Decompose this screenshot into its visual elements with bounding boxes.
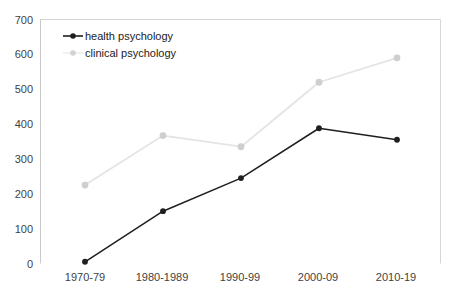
x-tick-label: 2000-09 — [298, 271, 338, 283]
data-point-marker — [82, 259, 88, 265]
legend-item-health-psychology: health psychology — [63, 30, 174, 42]
data-point-marker — [316, 125, 322, 131]
y-tick-label: 300 — [15, 153, 33, 165]
data-point-marker — [394, 54, 401, 61]
legend-label: clinical psychology — [85, 47, 177, 59]
chart-canvas: 700 600 500 400 300 200 100 0 1970-79 19… — [0, 0, 465, 297]
legend-label: health psychology — [85, 30, 174, 42]
y-tick-label: 0 — [27, 258, 33, 270]
x-tick-label: 2010-19 — [376, 271, 416, 283]
data-point-marker — [238, 175, 244, 181]
series-line — [85, 58, 397, 185]
y-tick-label: 100 — [15, 223, 33, 235]
data-point-marker — [316, 79, 323, 86]
data-point-marker — [160, 132, 167, 139]
y-tick-label: 700 — [15, 14, 33, 26]
x-tick-label: 1990-99 — [220, 271, 260, 283]
legend-marker-swatch — [70, 50, 76, 56]
data-point-marker — [394, 137, 400, 143]
series-clinical-psychology — [82, 54, 401, 188]
y-tick-label: 500 — [15, 83, 33, 95]
data-series-layer — [82, 54, 401, 264]
y-tick-label: 600 — [15, 48, 33, 60]
legend-item-clinical-psychology: clinical psychology — [63, 47, 177, 59]
y-axis-tick-labels: 700 600 500 400 300 200 100 0 — [15, 14, 33, 270]
x-tick-label: 1980-1989 — [136, 271, 189, 283]
data-point-marker — [238, 143, 245, 150]
data-point-marker — [82, 182, 89, 189]
y-tick-label: 400 — [15, 118, 33, 130]
x-tick-label: 1970-79 — [65, 271, 105, 283]
y-tick-label: 200 — [15, 188, 33, 200]
chart-legend: health psychology clinical psychology — [63, 30, 177, 59]
legend-marker-swatch — [70, 33, 76, 39]
x-axis-tick-labels: 1970-79 1980-1989 1990-99 2000-09 2010-1… — [65, 271, 416, 283]
line-chart-figure: 700 600 500 400 300 200 100 0 1970-79 19… — [0, 0, 465, 297]
data-point-marker — [160, 208, 166, 214]
